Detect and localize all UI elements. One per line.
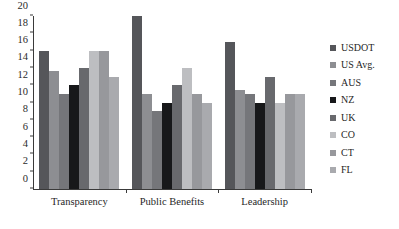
bar-uk xyxy=(79,68,89,189)
bar-co xyxy=(275,103,285,190)
y-axis-tick-label: 18 xyxy=(18,18,34,29)
y-axis-tick-label: 10 xyxy=(18,87,34,98)
bar-usdot xyxy=(39,51,49,189)
bar-aus xyxy=(59,94,69,189)
legend-swatch-icon xyxy=(330,150,336,156)
plot-area: 02468101214161820TransparencyPublic Bene… xyxy=(33,16,311,189)
legend-item-label: CT xyxy=(341,148,354,158)
bar-uk xyxy=(265,77,275,189)
bar-usdot xyxy=(132,16,142,189)
bar-ct xyxy=(285,94,295,189)
y-axis-tick-label: 20 xyxy=(18,0,34,11)
legend-swatch-icon xyxy=(330,132,336,138)
bar-co xyxy=(89,51,99,189)
legend-item-label: AUS xyxy=(341,78,361,88)
bar-nz xyxy=(162,103,172,190)
legend-item-label: FL xyxy=(341,165,353,175)
bar-ct xyxy=(99,51,109,189)
y-axis-tick-label: 16 xyxy=(18,35,34,46)
legend-item-fl[interactable]: FL xyxy=(330,162,399,180)
legend-item-label: CO xyxy=(341,130,355,140)
x-axis-line xyxy=(33,189,312,190)
legend-item-label: NZ xyxy=(341,95,354,105)
x-axis-separator-tick xyxy=(218,189,219,193)
legend-item-aus[interactable]: AUS xyxy=(330,74,399,92)
y-axis-tick-label: 12 xyxy=(18,69,34,80)
legend-swatch-icon xyxy=(330,167,336,173)
x-axis-category-label: Leadership xyxy=(241,196,288,207)
x-axis-end-tick xyxy=(311,189,312,193)
legend-item-us-avg[interactable]: US Avg. xyxy=(330,57,399,75)
y-axis-tick-label: 4 xyxy=(23,139,33,150)
legend-item-uk[interactable]: UK xyxy=(330,109,399,127)
bar-fl xyxy=(202,103,212,190)
y-axis-tick-label: 14 xyxy=(18,52,34,63)
legend-swatch-icon xyxy=(330,115,336,121)
bar-us-avg xyxy=(49,71,59,190)
bar-fl xyxy=(295,94,305,189)
bar-usdot xyxy=(225,42,235,189)
legend-item-usdot[interactable]: USDOT xyxy=(330,39,399,57)
bar-nz xyxy=(255,103,265,190)
y-axis-tick-label: 2 xyxy=(23,156,33,167)
legend-item-ct[interactable]: CT xyxy=(330,144,399,162)
legend-item-co[interactable]: CO xyxy=(330,127,399,145)
legend-item-label: USDOT xyxy=(341,43,374,53)
bar-fl xyxy=(109,77,119,189)
legend-item-nz[interactable]: NZ xyxy=(330,92,399,110)
bar-group: Public Benefits xyxy=(126,16,219,189)
y-axis-tick-label: 0 xyxy=(23,173,33,184)
legend-swatch-icon xyxy=(330,45,336,51)
legend-swatch-icon xyxy=(330,97,336,103)
y-axis-tick-label: 6 xyxy=(23,121,33,132)
bar-us-avg xyxy=(235,90,245,189)
bar-aus xyxy=(245,94,255,189)
bar-ct xyxy=(192,94,202,189)
x-axis-category-label: Public Benefits xyxy=(140,196,204,207)
bar-group: Leadership xyxy=(218,16,311,189)
x-axis-category-label: Transparency xyxy=(51,196,108,207)
bar-group: Transparency xyxy=(33,16,126,189)
legend-item-label: UK xyxy=(341,113,355,123)
chart-legend: USDOTUS Avg.AUSNZUKCOCTFL xyxy=(330,39,399,179)
legend-swatch-icon xyxy=(330,80,336,86)
x-axis-separator-tick xyxy=(126,189,127,193)
y-axis-tick-label: 8 xyxy=(23,104,33,115)
bar-aus xyxy=(152,111,162,189)
bar-chart: 02468101214161820TransparencyPublic Bene… xyxy=(0,0,399,229)
bar-nz xyxy=(69,85,79,189)
legend-swatch-icon xyxy=(330,62,336,68)
legend-item-label: US Avg. xyxy=(341,60,375,70)
bar-us-avg xyxy=(142,94,152,189)
bar-uk xyxy=(172,85,182,189)
bar-co xyxy=(182,68,192,189)
